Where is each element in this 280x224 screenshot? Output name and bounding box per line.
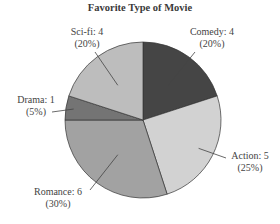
label-comedy-value: Comedy: 4 xyxy=(190,26,234,37)
label-drama-value: Drama: 1 xyxy=(17,94,55,105)
label-action-value: Action: 5 xyxy=(231,150,269,161)
label-drama-pct: (5%) xyxy=(26,106,46,118)
label-comedy-pct: (20%) xyxy=(200,38,225,50)
label-romance-pct: (30%) xyxy=(46,198,71,210)
label-romance-value: Romance: 6 xyxy=(34,186,82,197)
pie-chart: Comedy: 4 (20%) Action: 5 (25%) Romance:… xyxy=(0,0,280,224)
label-action-pct: (25%) xyxy=(238,162,263,174)
label-scifi-pct: (20%) xyxy=(75,38,100,50)
label-scifi-value: Sci-fi: 4 xyxy=(71,26,104,37)
pie-slices xyxy=(65,42,221,198)
